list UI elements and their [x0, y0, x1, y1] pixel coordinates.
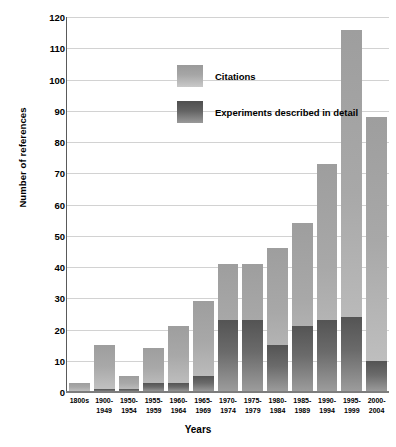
x-axis-tick-line: 1964: [166, 406, 191, 416]
x-axis-tick-line: 1995-: [339, 396, 364, 406]
x-axis-tick-line: 1959: [141, 406, 166, 416]
y-axis-tick-label: 70: [35, 168, 65, 179]
x-axis-tick-line: 1950-: [117, 396, 142, 406]
x-axis-tick-label: 1985-1989: [290, 396, 315, 415]
x-axis-ticks: 1800s1900-19491950-19541955-19591960-196…: [67, 396, 389, 420]
bar-segment-experiments: [341, 317, 362, 392]
x-axis-tick-label: 1965-1969: [191, 396, 216, 415]
y-axis-title: Number of references: [17, 88, 28, 228]
x-axis-tick-line: 2000-: [364, 396, 389, 406]
x-axis-tick-line: 1979: [240, 406, 265, 416]
x-axis-title: Years: [0, 424, 396, 435]
x-axis-tick-label: 1960-1964: [166, 396, 191, 415]
y-axis-tick-label: 30: [35, 293, 65, 304]
x-axis-tick-line: 1994: [315, 406, 340, 416]
x-axis-tick-line: 1965-: [191, 396, 216, 406]
y-axis-tick-label: 110: [35, 43, 65, 54]
bar-segment-experiments: [292, 326, 313, 392]
bar-group: [119, 17, 140, 392]
bar-group: [69, 17, 90, 392]
x-axis-tick-line: 1984: [265, 406, 290, 416]
bar-chart: Number of references 0102030405060708090…: [0, 0, 396, 447]
y-axis-tick-label: 40: [35, 262, 65, 273]
x-axis-tick-line: 1800s: [67, 396, 92, 406]
x-axis-tick-line: 1975-: [240, 396, 265, 406]
bar-segment-experiments: [218, 320, 239, 392]
x-axis-tick-label: 1975-1979: [240, 396, 265, 415]
x-axis-tick-line: 1974: [216, 406, 241, 416]
bar-segment-experiments: [267, 345, 288, 392]
x-axis-tick-line: 1960-: [166, 396, 191, 406]
x-axis-tick-line: 1954: [117, 406, 142, 416]
x-axis-tick-line: 1980-: [265, 396, 290, 406]
x-axis-tick-line: 1985-: [290, 396, 315, 406]
y-axis-tick-label: 0: [35, 387, 65, 398]
x-axis-tick-label: 1955-1959: [141, 396, 166, 415]
x-axis-tick-label: 1800s: [67, 396, 92, 406]
x-axis-tick-line: 1990-: [315, 396, 340, 406]
plot-area: 0102030405060708090100110120 Citations E…: [67, 17, 389, 392]
x-axis-tick-line: 1969: [191, 406, 216, 416]
x-axis-tick-line: 1955-: [141, 396, 166, 406]
x-axis-tick-line: 2004: [364, 406, 389, 416]
x-axis-tick-label: 2000-2004: [364, 396, 389, 415]
legend-item-citations: Citations: [177, 65, 358, 87]
bar-group: [94, 17, 115, 392]
y-axis-tick-label: 90: [35, 105, 65, 116]
legend-item-experiments: Experiments described in detail: [177, 101, 358, 123]
x-axis-tick-line: 1999: [339, 406, 364, 416]
x-axis-tick-label: 1900-1949: [92, 396, 117, 415]
y-axis-tick-label: 120: [35, 12, 65, 23]
x-axis-line: [66, 391, 389, 393]
legend-label-experiments: Experiments described in detail: [215, 107, 358, 118]
x-axis-tick-label: 1950-1954: [117, 396, 142, 415]
y-axis-tick-label: 50: [35, 230, 65, 241]
y-axis-tick-label: 100: [35, 74, 65, 85]
x-axis-tick-line: 1989: [290, 406, 315, 416]
x-axis-tick-line: 1970-: [216, 396, 241, 406]
bar-segment-experiments: [317, 320, 338, 392]
bar-segment-citations: [366, 117, 387, 392]
legend-swatch-citations: [177, 65, 203, 87]
legend: Citations Experiments described in detai…: [177, 65, 358, 137]
y-axis-tick-label: 10: [35, 355, 65, 366]
bar-group: [143, 17, 164, 392]
bar-segment-experiments: [366, 361, 387, 392]
x-axis-tick-label: 1990-1994: [315, 396, 340, 415]
bar-segment-experiments: [242, 320, 263, 392]
bar-segment-citations: [94, 345, 115, 392]
bar-group: [366, 17, 387, 392]
x-axis-tick-line: 1900-: [92, 396, 117, 406]
legend-swatch-experiments: [177, 101, 203, 123]
x-axis-tick-line: 1949: [92, 406, 117, 416]
x-axis-tick-label: 1995-1999: [339, 396, 364, 415]
y-axis-tick-label: 20: [35, 324, 65, 335]
x-axis-tick-label: 1980-1984: [265, 396, 290, 415]
x-axis-tick-label: 1970-1974: [216, 396, 241, 415]
bar-segment-experiments: [193, 376, 214, 392]
legend-label-citations: Citations: [215, 71, 256, 82]
y-axis-tick-label: 60: [35, 199, 65, 210]
y-axis-tick-label: 80: [35, 137, 65, 148]
